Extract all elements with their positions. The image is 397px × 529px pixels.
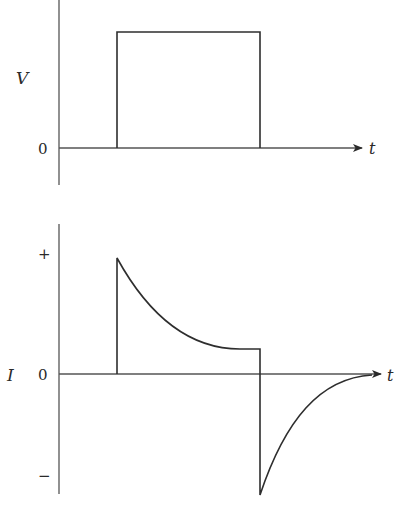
current-positive-trace	[117, 258, 260, 374]
figure-canvas: V 0 t + I 0 − t	[0, 0, 397, 529]
voltage-time-label: t	[369, 139, 376, 158]
current-panel	[59, 224, 381, 495]
voltage-panel	[59, 0, 362, 185]
current-plus-tick: +	[38, 245, 51, 263]
voltage-axis-label: V	[16, 68, 30, 88]
current-time-label: t	[387, 366, 394, 385]
current-minus-tick: −	[38, 467, 51, 485]
current-negative-trace	[260, 374, 372, 495]
voltage-pulse-trace	[117, 32, 260, 148]
current-axis-label: I	[6, 365, 14, 385]
voltage-zero-tick: 0	[38, 140, 48, 158]
current-zero-tick: 0	[38, 366, 48, 384]
